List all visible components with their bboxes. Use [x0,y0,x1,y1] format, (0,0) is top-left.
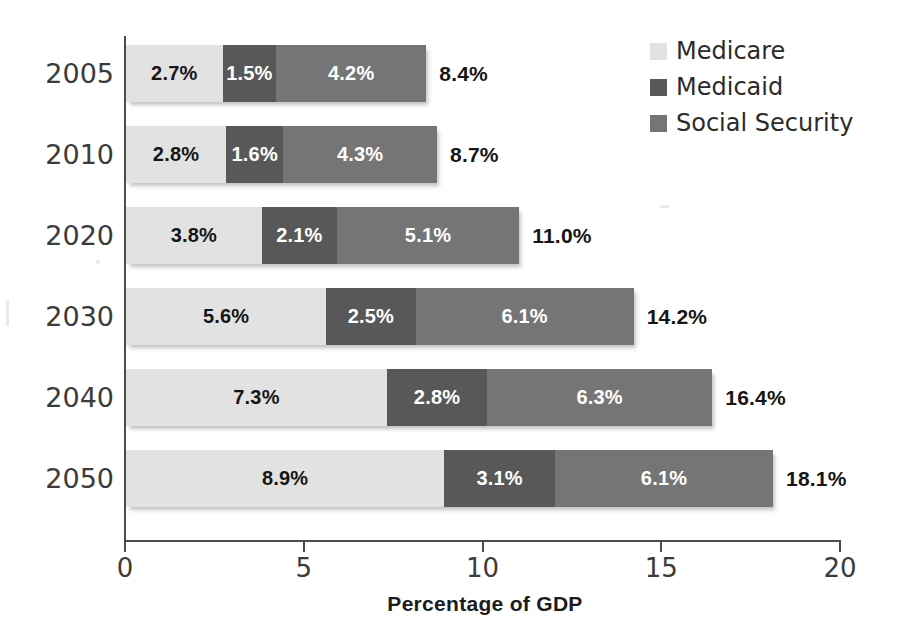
x-axis-tick [303,542,305,552]
bar-stack-2030[interactable]: 5.6%2.5%6.1% [126,288,634,345]
segment-value-label: 5.1% [405,224,451,247]
segment-value-label: 4.3% [337,143,383,166]
bar-stack-2040[interactable]: 7.3%2.8%6.3% [126,369,712,426]
bar-row: 20305.6%2.5%6.1%14.2% [0,288,906,345]
category-label-2020: 2020 [18,220,114,252]
bar-segment-medicaid[interactable]: 3.1% [444,450,555,507]
bar-stack-2050[interactable]: 8.9%3.1%6.1% [126,450,773,507]
x-axis-tick [660,542,662,552]
bar-segment-medicaid[interactable]: 1.5% [223,45,277,102]
segment-value-label: 6.1% [641,467,687,490]
bar-segment-social-security[interactable]: 4.2% [276,45,426,102]
legend-label: Medicare [676,37,785,65]
bar-segment-medicare[interactable]: 8.9% [126,450,444,507]
legend-item-social-security[interactable]: Social Security [650,105,853,141]
x-axis-tick [839,542,841,552]
bar-segment-medicare[interactable]: 5.6% [126,288,326,345]
category-label-2010: 2010 [18,139,114,171]
bar-segment-medicaid[interactable]: 2.8% [387,369,487,426]
bar-segment-medicare[interactable]: 3.8% [126,207,262,264]
bar-row: 20407.3%2.8%6.3%16.4% [0,369,906,426]
bar-total-label: 18.1% [786,467,847,491]
bar-segment-medicaid[interactable]: 2.5% [326,288,415,345]
category-label-2050: 2050 [18,463,114,495]
x-axis-tick-label: 10 [453,553,513,583]
bar-total-label: 11.0% [532,224,591,248]
segment-value-label: 2.7% [151,62,197,85]
segment-value-label: 2.8% [414,386,460,409]
bar-row: 20203.8%2.1%5.1%11.0% [0,207,906,264]
bar-stack-2005[interactable]: 2.7%1.5%4.2% [126,45,426,102]
bar-stack-2020[interactable]: 3.8%2.1%5.1% [126,207,519,264]
segment-value-label: 2.8% [153,143,199,166]
bar-total-label: 8.7% [450,143,499,167]
segment-value-label: 3.8% [171,224,217,247]
bar-segment-social-security[interactable]: 4.3% [283,126,437,183]
x-axis-tick [124,542,126,552]
legend-item-medicaid[interactable]: Medicaid [650,69,853,105]
legend-swatch-social-security [650,115,667,132]
bar-row: 20508.9%3.1%6.1%18.1% [0,450,906,507]
x-axis-tick [482,542,484,552]
x-axis-title-label: Percentage of GDP [387,592,582,616]
bar-segment-social-security[interactable]: 5.1% [337,207,519,264]
bar-segment-social-security[interactable]: 6.1% [555,450,773,507]
bar-stack-2010[interactable]: 2.8%1.6%4.3% [126,126,437,183]
segment-value-label: 1.5% [226,62,272,85]
bar-segment-social-security[interactable]: 6.3% [487,369,712,426]
segment-value-label: 7.3% [233,386,279,409]
segment-value-label: 3.1% [476,467,522,490]
category-label-2040: 2040 [18,382,114,414]
bar-segment-medicare[interactable]: 7.3% [126,369,387,426]
segment-value-label: 2.5% [348,305,394,328]
segment-value-label: 2.1% [276,224,322,247]
legend-swatch-medicare [650,43,667,60]
segment-value-label: 1.6% [231,143,277,166]
segment-value-label: 8.9% [262,467,308,490]
legend-label: Social Security [676,109,853,137]
segment-value-label: 5.6% [203,305,249,328]
category-label-2030: 2030 [18,301,114,333]
x-axis-tick-label: 0 [95,553,155,583]
bar-segment-medicaid[interactable]: 2.1% [262,207,337,264]
segment-value-label: 4.2% [328,62,374,85]
bar-segment-medicaid[interactable]: 1.6% [226,126,283,183]
bar-total-label: 16.4% [725,386,786,410]
chart-legend: MedicareMedicaidSocial Security [650,33,853,141]
bar-total-label: 14.2% [647,305,708,329]
x-axis-tick-label: 5 [274,553,334,583]
segment-value-label: 6.3% [576,386,622,409]
segment-value-label: 6.1% [501,305,547,328]
category-label-2005: 2005 [18,58,114,90]
x-axis-tick-label: 20 [810,553,870,583]
legend-label: Medicaid [676,73,783,101]
legend-item-medicare[interactable]: Medicare [650,33,853,69]
bar-segment-medicare[interactable]: 2.8% [126,126,226,183]
stacked-bar-chart: 05101520 Percentage of GDP 20052.7%1.5%4… [0,0,906,635]
x-axis-title: Percentage of GDP [0,592,906,616]
bar-total-label: 8.4% [439,62,488,86]
legend-swatch-medicaid [650,79,667,96]
x-axis-tick-label: 15 [631,553,691,583]
bar-segment-social-security[interactable]: 6.1% [416,288,634,345]
bar-segment-medicare[interactable]: 2.7% [126,45,223,102]
